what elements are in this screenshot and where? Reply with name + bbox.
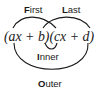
foil-diagram: First Last Inner Outer (ax + b)(cx + d): [0, 0, 99, 91]
first-label: First: [24, 4, 43, 15]
last-label: Last: [62, 4, 81, 15]
inner-label: Inner: [37, 51, 59, 62]
outer-label: Outer: [38, 78, 62, 89]
first-arc: [13, 17, 56, 28]
binomial-expression: (ax + b)(cx + d): [4, 28, 94, 45]
